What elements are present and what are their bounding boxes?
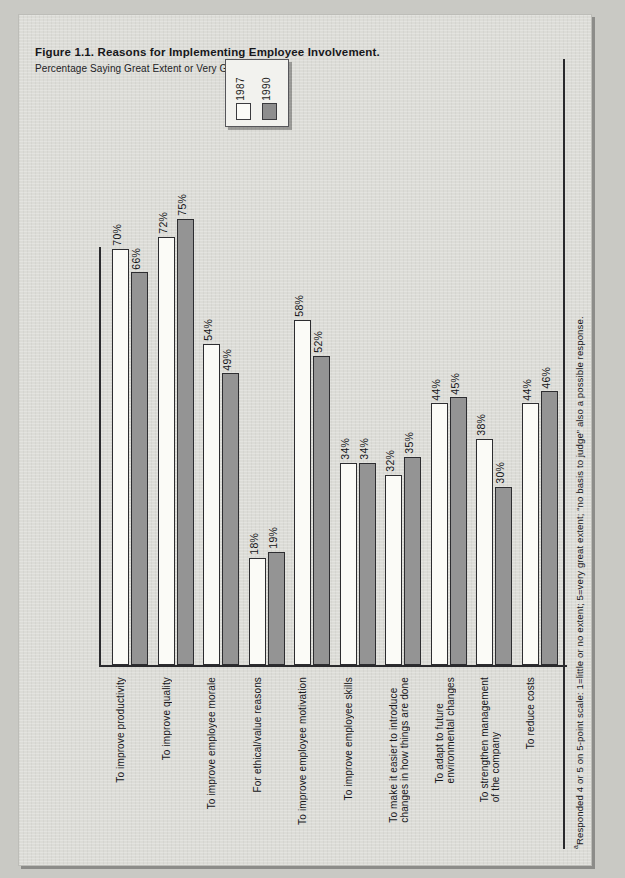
x-axis-label: To make it easier to introduce changes i… (388, 677, 410, 823)
bar-group: 38%30% (476, 664, 516, 665)
x-axis-label: To improve employee skills (343, 677, 354, 800)
x-axis-label: To improve quality (161, 677, 172, 760)
bar-1987 (112, 249, 129, 666)
y-axis-line (99, 247, 101, 667)
bar-value-label-1987: 32% (384, 450, 396, 472)
bar-1990 (541, 391, 558, 665)
bar-1990 (404, 457, 421, 665)
bar-1987 (249, 558, 266, 665)
bar-1987 (385, 475, 402, 665)
footnote-rule (563, 59, 565, 849)
figure-footnote: aResponded 4 or 5 on 5-point scale: 1=li… (572, 59, 585, 849)
bar-value-label-1990: 66% (130, 248, 142, 270)
bar-1990 (359, 463, 376, 665)
bar-1987 (522, 403, 539, 665)
x-axis-label: To improve employee morale (206, 677, 217, 809)
chart-plot-area: 70%66%72%75%54%49%18%19%58%52%34%34%32%3… (19, 15, 591, 865)
bar-value-label-1990: 52% (312, 331, 324, 353)
bar-1990 (131, 272, 148, 665)
bar-1990 (177, 219, 194, 665)
bar-1990 (450, 397, 467, 665)
x-axis-label: To strengthen management of the company (479, 677, 501, 802)
x-axis-line (99, 665, 567, 667)
x-axis-label: To reduce costs (525, 677, 536, 749)
x-axis-label: To improve employee motivation (297, 677, 308, 825)
bar-value-label-1990: 34% (358, 438, 370, 460)
bar-value-label-1990: 45% (449, 373, 461, 395)
bar-value-label-1990: 30% (494, 462, 506, 484)
bar-1987 (158, 237, 175, 665)
bar-1990 (222, 373, 239, 665)
bar-value-label-1987: 72% (157, 212, 169, 234)
figure-page: Figure 1.1. Reasons for Implementing Emp… (0, 0, 625, 878)
footnote-marker: a (572, 845, 579, 849)
x-axis-label: To improve productivity (115, 677, 126, 783)
figure-panel: Figure 1.1. Reasons for Implementing Emp… (18, 14, 592, 866)
bar-group: 70%66% (112, 664, 152, 665)
bar-1987 (294, 320, 311, 665)
bar-group: 18%19% (249, 664, 289, 665)
bar-value-label-1987: 34% (339, 438, 351, 460)
bar-value-label-1987: 44% (521, 379, 533, 401)
bar-1987 (340, 463, 357, 665)
bar-value-label-1987: 38% (475, 414, 487, 436)
bar-group: 34%34% (340, 664, 380, 665)
bar-group: 54%49% (203, 664, 243, 665)
bar-1987 (431, 403, 448, 665)
bar-value-label-1990: 46% (540, 367, 552, 389)
bar-value-label-1990: 49% (221, 349, 233, 371)
bar-value-label-1990: 19% (267, 527, 279, 549)
bar-value-label-1987: 58% (293, 295, 305, 317)
x-axis-label: To adapt to future environmental changes (434, 677, 456, 784)
bar-1987 (476, 439, 493, 665)
bar-value-label-1990: 35% (403, 432, 415, 454)
bar-value-label-1990: 75% (176, 194, 188, 216)
x-axis-label: For ethical/value reasons (252, 677, 263, 792)
bar-value-label-1987: 54% (202, 319, 214, 341)
footnote-text: Responded 4 or 5 on 5-point scale: 1=lit… (574, 316, 585, 845)
bar-value-label-1987: 70% (111, 224, 123, 246)
bar-group: 72%75% (158, 664, 198, 665)
bar-group: 44%45% (431, 664, 471, 665)
bar-group: 44%46% (522, 664, 562, 665)
bar-1987 (203, 344, 220, 665)
bar-value-label-1987: 18% (248, 533, 260, 555)
bar-1990 (495, 487, 512, 666)
bar-group: 58%52% (294, 664, 334, 665)
bar-1990 (268, 552, 285, 665)
bar-1990 (313, 356, 330, 665)
bar-group: 32%35% (385, 664, 425, 665)
bar-value-label-1987: 44% (430, 379, 442, 401)
